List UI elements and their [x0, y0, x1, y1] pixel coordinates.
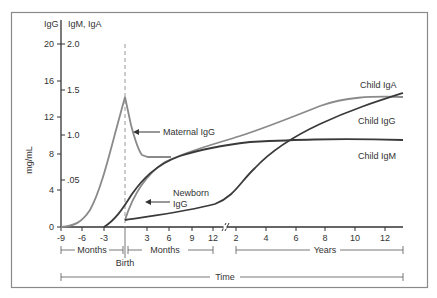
xtick-m9: -9 [57, 233, 65, 243]
child-igm-label: Child IgM [358, 151, 396, 161]
xtick-y2: 2 [233, 233, 238, 243]
time-label: Time [215, 272, 235, 282]
xtick-y6: 6 [293, 233, 298, 243]
axis-break-gap [224, 225, 227, 229]
xtick-12: 12 [208, 233, 218, 243]
maternal-igg-curve [61, 97, 171, 227]
tick-0: 0 [49, 222, 54, 232]
xtick-m6: -6 [78, 233, 86, 243]
tick-4: 4 [49, 185, 54, 195]
xtick-9: 9 [189, 233, 194, 243]
tick-1-5: 1.5 [67, 85, 80, 95]
immunoglobulin-chart: IgG IgM, IgA mg/mL 20 16 12 8 4 0 2.0 1.… [0, 0, 437, 298]
months-after-label: Months [150, 245, 180, 255]
tick-8: 8 [49, 149, 54, 159]
xtick-3: 3 [144, 233, 149, 243]
xtick-y10: 10 [350, 233, 360, 243]
tick-05: .05 [67, 175, 80, 185]
left-axis-title: IgG [44, 19, 59, 29]
tick-16: 16 [44, 76, 54, 86]
child-iga-label: Child IgA [360, 80, 397, 90]
years-label: Years [314, 245, 337, 255]
right-axis-title: IgM, IgA [68, 19, 102, 29]
y-unit-label: mg/mL [24, 146, 34, 174]
birth-label: Birth [116, 258, 135, 268]
xtick-y8: 8 [322, 233, 327, 243]
tick-1-0: 1.0 [67, 130, 80, 140]
chart-frame [12, 13, 428, 288]
newborn-label-line1: Newborn [173, 188, 209, 198]
newborn-label-line2: IgG [173, 199, 188, 209]
newborn-arrow-icon [145, 199, 151, 205]
xtick-y4: 4 [263, 233, 268, 243]
tick-2-0: 2.0 [67, 39, 80, 49]
xtick-y12: 12 [380, 233, 390, 243]
xtick-6: 6 [166, 233, 171, 243]
x-ticks: -9 -6 -3 3 6 9 12 2 4 6 8 10 12 [57, 227, 390, 243]
tick-12: 12 [44, 112, 54, 122]
right-ticks: 2.0 1.5 1.0 .05 [61, 39, 80, 185]
xtick-m3: -3 [100, 233, 108, 243]
maternal-igg-label: Maternal IgG [163, 127, 215, 137]
child-igg-label: Child IgG [358, 116, 396, 126]
tick-20: 20 [44, 39, 54, 49]
months-before-label: Months [77, 245, 107, 255]
